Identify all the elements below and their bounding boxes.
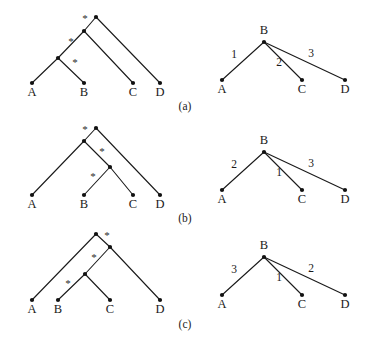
- weighted-edge: [222, 152, 264, 190]
- tree-edge: [110, 247, 160, 300]
- leaf-label-b: B: [54, 302, 62, 316]
- leaf-label-d: D: [155, 197, 164, 211]
- leaf-label-d: D: [340, 82, 349, 96]
- leaf-label-c: C: [298, 297, 306, 311]
- tree-edge: [110, 167, 133, 195]
- tree-edge: [58, 274, 85, 300]
- panel-c-left-tree: ABCD***: [27, 229, 164, 316]
- panel-b-left-tree: ABCD***: [27, 123, 164, 211]
- center-node-label-b: B: [260, 133, 268, 147]
- panel-b: ABCD***BACD213(b): [27, 123, 349, 225]
- panel-b-caption: (b): [178, 212, 192, 225]
- edge-weight-label: 1: [276, 271, 282, 283]
- star-mark-2: *: [91, 251, 97, 263]
- weighted-edge: [264, 42, 302, 80]
- edge-weight-label: 2: [231, 158, 237, 170]
- internal-node-dot: [56, 56, 60, 60]
- internal-node-dot: [94, 15, 98, 19]
- leaf-label-b: B: [80, 197, 88, 211]
- leaf-label-a: A: [217, 82, 226, 96]
- edge-weight-label: 2: [308, 262, 314, 274]
- leaf-label-c: C: [298, 82, 306, 96]
- leaf-label-d: D: [340, 297, 349, 311]
- tree-edge: [84, 167, 110, 195]
- leaf-label-a: A: [217, 297, 226, 311]
- internal-node-dot: [94, 126, 98, 130]
- tree-edge: [85, 274, 110, 300]
- leaf-label-a: A: [217, 192, 226, 206]
- diagram-layers: ABCD***BACD123(a)ABCD***BACD213(b)ABCD**…: [27, 12, 349, 331]
- star-mark-2: *: [99, 145, 105, 157]
- star-mark-3: *: [72, 56, 78, 68]
- leaf-label-a: A: [27, 85, 36, 99]
- internal-node-dot: [108, 165, 112, 169]
- edge-weight-label: 3: [308, 157, 314, 169]
- star-mark-1: *: [82, 12, 88, 24]
- leaf-label-c: C: [298, 192, 306, 206]
- star-mark-1: *: [104, 229, 110, 241]
- leaf-label-d: D: [155, 85, 164, 99]
- panel-b-right-tree: BACD213: [217, 133, 349, 206]
- tree-edge: [96, 128, 160, 195]
- star-mark-2: *: [68, 35, 74, 47]
- edge-weight-label: 1: [276, 166, 282, 178]
- internal-node-dot: [82, 139, 86, 143]
- tree-edge: [96, 17, 160, 83]
- center-node-label-b: B: [260, 238, 268, 252]
- leaf-label-d: D: [155, 302, 164, 316]
- star-mark-3: *: [90, 170, 96, 182]
- tree-edge: [84, 141, 110, 167]
- weighted-edge: [264, 257, 302, 295]
- internal-node-dot: [94, 232, 98, 236]
- panel-a-left-tree: ABCD***: [27, 12, 164, 99]
- leaf-label-a: A: [27, 197, 36, 211]
- center-node-label-b: B: [260, 23, 268, 37]
- tree-edge: [32, 141, 84, 195]
- tree-edge: [32, 58, 58, 83]
- panel-c: ABCD***BACD312(c): [27, 229, 349, 331]
- tree-edge: [58, 58, 84, 83]
- panel-a: ABCD***BACD123(a): [27, 12, 349, 113]
- panel-a-right-tree: BACD123: [217, 23, 349, 96]
- leaf-label-c: C: [129, 85, 137, 99]
- leaf-label-b: B: [80, 85, 88, 99]
- center-node-dot: [262, 40, 266, 44]
- panel-c-caption: (c): [179, 318, 192, 331]
- leaf-label-c: C: [106, 302, 114, 316]
- leaf-label-a: A: [27, 302, 36, 316]
- tree-edge: [84, 31, 133, 83]
- tree-diagram-figure: ABCD***BACD123(a)ABCD***BACD213(b)ABCD**…: [0, 0, 370, 350]
- internal-node-dot: [82, 29, 86, 33]
- edge-weight-label: 3: [231, 263, 237, 275]
- panel-a-caption: (a): [179, 100, 192, 113]
- leaf-label-c: C: [129, 197, 137, 211]
- star-mark-3: *: [65, 277, 71, 289]
- internal-node-dot: [83, 272, 87, 276]
- panel-c-right-tree: BACD312: [217, 238, 349, 311]
- tree-edge: [32, 234, 96, 300]
- edge-weight-label: 1: [231, 48, 237, 60]
- edge-weight-label: 3: [308, 47, 314, 59]
- weighted-edge: [222, 42, 264, 80]
- star-mark-1: *: [82, 123, 88, 135]
- internal-node-dot: [108, 245, 112, 249]
- figure-container: ABCD***BACD123(a)ABCD***BACD213(b)ABCD**…: [0, 0, 370, 350]
- edge-weight-label: 2: [276, 56, 282, 68]
- leaf-label-d: D: [340, 192, 349, 206]
- center-node-dot: [262, 255, 266, 259]
- weighted-edge: [222, 257, 264, 295]
- weighted-edge: [264, 152, 302, 190]
- center-node-dot: [262, 150, 266, 154]
- tree-edge: [85, 247, 110, 274]
